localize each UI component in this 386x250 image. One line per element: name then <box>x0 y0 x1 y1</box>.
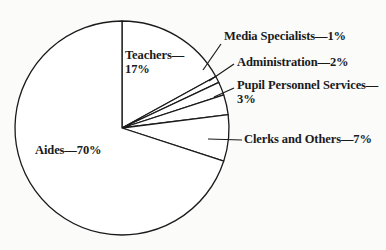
label-media-specialists-text: Media Specialists—1% <box>224 29 346 43</box>
label-teachers-name: Teachers— <box>125 48 184 62</box>
label-media-specialists: Media Specialists—1% <box>224 29 346 43</box>
label-aides-text: Aides—70% <box>35 143 101 157</box>
label-pupil-personnel-name: Pupil Personnel Services— <box>237 78 378 92</box>
label-pupil-personnel-value: 3% <box>237 92 378 106</box>
label-aides: Aides—70% <box>35 143 101 157</box>
label-clerks-text: Clerks and Others—7% <box>244 132 372 146</box>
label-teachers-value: 17% <box>125 62 184 76</box>
label-administration-text: Administration—2% <box>237 55 349 69</box>
label-clerks-and-others: Clerks and Others—7% <box>244 132 372 146</box>
label-pupil-personnel-services: Pupil Personnel Services— 3% <box>237 78 378 106</box>
leader-media-specialists <box>203 44 221 70</box>
label-teachers: Teachers— 17% <box>125 48 184 76</box>
label-administration: Administration—2% <box>237 55 349 69</box>
pie-slices <box>15 21 229 235</box>
